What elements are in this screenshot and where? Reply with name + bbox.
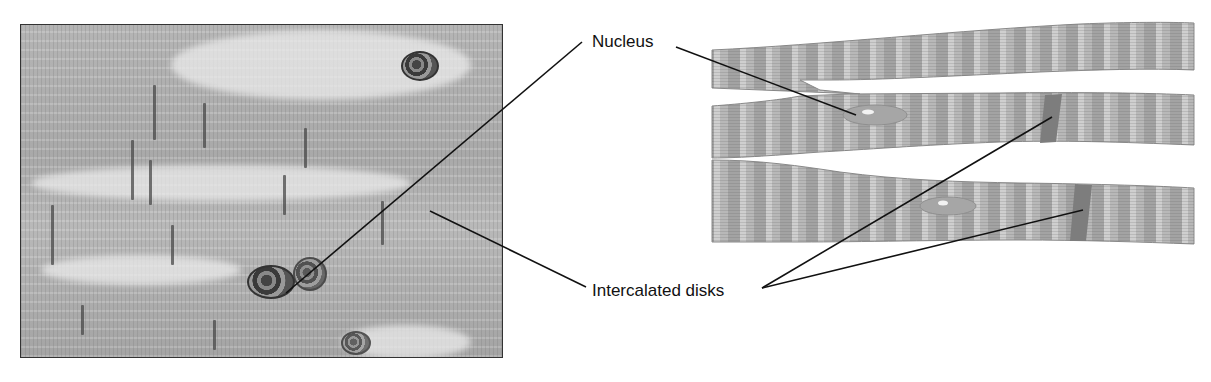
nucleus-micrograph [401, 51, 439, 81]
intercalated-disks-label: Intercalated disks [592, 282, 724, 299]
leader-disk-illustration-1 [762, 117, 1052, 288]
pale-region [31, 165, 411, 201]
intercalated-disk [304, 128, 307, 168]
nucleus-micrograph [293, 257, 327, 291]
pale-region [41, 255, 241, 285]
nucleus-illustration [843, 105, 907, 125]
cardiac-fiber-bottom [712, 160, 1194, 244]
intercalated-disk-illustration [1070, 184, 1092, 241]
intercalated-disk-illustration [1040, 94, 1062, 143]
intercalated-disk [131, 140, 134, 200]
intercalated-disk [51, 205, 54, 265]
cardiac-muscle-figure: Nucleus Intercalated disks [0, 0, 1211, 382]
nucleus-illustration [920, 197, 976, 215]
nucleus-label: Nucleus [592, 33, 653, 50]
cardiac-muscle-micrograph [20, 24, 503, 358]
intercalated-disk [283, 175, 286, 215]
nucleus-micrograph [247, 265, 295, 299]
intercalated-disk [213, 320, 216, 350]
intercalated-disk [203, 103, 206, 148]
intercalated-disk [381, 201, 384, 245]
intercalated-disk [153, 85, 156, 140]
intercalated-disk [171, 225, 174, 265]
nucleus-micrograph [341, 331, 371, 355]
intercalated-disk [81, 305, 84, 335]
cardiac-fiber-middle [712, 93, 1194, 158]
leader-nucleus-illustration [676, 47, 856, 115]
intercalated-disk [149, 160, 152, 205]
leader-disk-illustration-2 [762, 210, 1083, 288]
cardiac-fiber-top [712, 22, 1194, 94]
